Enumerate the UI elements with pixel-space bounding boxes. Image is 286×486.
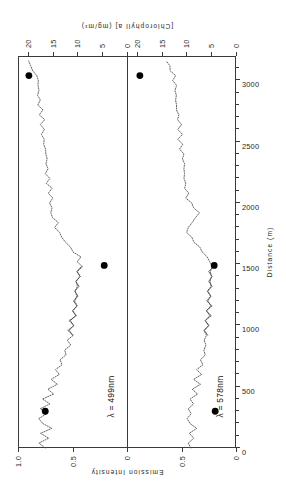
- chlorophyll-data-point: [136, 72, 143, 79]
- distance-minor-tick: [236, 276, 239, 277]
- chlorophyll-tick-label: 5: [98, 44, 107, 48]
- distance-minor-tick: [236, 104, 239, 105]
- chlorophyll-tick-label: 5: [207, 44, 216, 48]
- chlorophyll-tick-label: 10: [182, 39, 191, 48]
- chlorophyll-tick-label: 20: [132, 39, 141, 48]
- distance-minor-tick: [236, 165, 239, 166]
- emission-tick: [127, 448, 128, 452]
- rotated-figure-container: Distance (m) Emission Intensity [Chlorop…: [0, 0, 286, 486]
- distance-minor-tick: [236, 361, 239, 362]
- distance-minor-tick: [236, 300, 239, 301]
- distance-minor-tick: [236, 190, 239, 191]
- y-axis-title-emission: Emission Intensity: [91, 469, 164, 476]
- distance-minor-tick: [236, 374, 239, 375]
- distance-minor-tick: [236, 239, 239, 240]
- distance-minor-tick: [236, 410, 239, 411]
- chlorophyll-tick-label: 15: [48, 39, 57, 48]
- distance-tick: [236, 141, 240, 142]
- emission-tick-label: 0.5: [177, 456, 186, 467]
- distance-minor-tick: [236, 153, 239, 154]
- distance-minor-tick: [236, 214, 239, 215]
- chlorophyll-data-point: [211, 262, 218, 269]
- emission-tick-label: 0: [232, 456, 241, 460]
- distance-minor-tick: [236, 423, 239, 424]
- chlorophyll-tick-label: 0: [123, 44, 132, 48]
- distance-tick: [236, 386, 240, 387]
- emission-tick-label: 1.0: [14, 456, 23, 467]
- distance-tick: [236, 263, 240, 264]
- emission-curve: [166, 61, 212, 448]
- distance-tick: [236, 325, 240, 326]
- marker-group: [26, 72, 219, 414]
- distance-minor-tick: [236, 288, 239, 289]
- chlorophyll-tick: [236, 52, 237, 56]
- distance-minor-tick: [236, 129, 239, 130]
- x-axis-title: Distance (m): [266, 227, 273, 278]
- chlorophyll-tick-label: 0: [232, 44, 241, 48]
- emission-curve-solid-segment: [69, 267, 81, 336]
- emission-tick: [18, 448, 19, 452]
- figure: Distance (m) Emission Intensity [Chlorop…: [0, 0, 286, 486]
- figure-canvas: Distance (m) Emission Intensity [Chlorop…: [0, 0, 286, 486]
- chlorophyll-data-point: [212, 408, 219, 415]
- distance-minor-tick: [236, 312, 239, 313]
- chlorophyll-data-point: [26, 72, 33, 79]
- emission-tick: [182, 448, 183, 452]
- emission-tick: [73, 448, 74, 452]
- y-axis-title-chlorophyll: [Chlorophyll a] (mg/m³): [81, 23, 173, 30]
- data-plot-area: [18, 56, 236, 448]
- emission-tick-label: 0.5: [68, 456, 77, 467]
- distance-minor-tick: [236, 116, 239, 117]
- distance-minor-tick: [236, 337, 239, 338]
- distance-minor-tick: [236, 349, 239, 350]
- distance-tick: [236, 202, 240, 203]
- distance-minor-tick: [236, 227, 239, 228]
- chlorophyll-data-point: [101, 262, 108, 269]
- distance-minor-tick: [236, 251, 239, 252]
- distance-minor-tick: [236, 92, 239, 93]
- emission-tick: [236, 448, 237, 452]
- chlorophyll-tick-label: 20: [23, 39, 32, 48]
- distance-minor-tick: [236, 435, 239, 436]
- emission-curve: [29, 61, 83, 448]
- distance-minor-tick: [236, 398, 239, 399]
- distance-minor-tick: [236, 178, 239, 179]
- emission-tick-label: 0: [123, 456, 132, 460]
- distance-minor-tick: [236, 67, 239, 68]
- chlorophyll-tick-label: 10: [73, 39, 82, 48]
- chlorophyll-tick-label: 15: [157, 39, 166, 48]
- emission-curve-solid-segment: [204, 267, 213, 336]
- distance-tick: [236, 80, 240, 81]
- chlorophyll-data-point: [42, 408, 49, 415]
- series-group: [29, 61, 214, 448]
